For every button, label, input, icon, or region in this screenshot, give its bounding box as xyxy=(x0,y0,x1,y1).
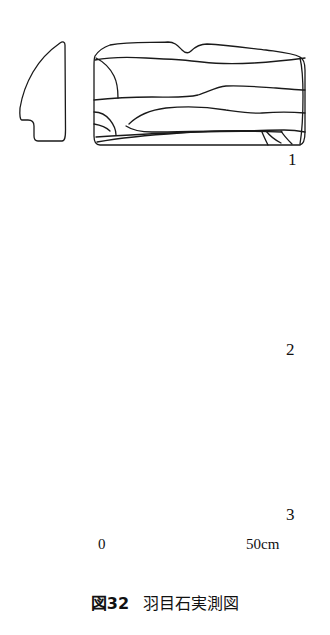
stone-1-group xyxy=(20,42,305,145)
figure-sheet: 1 2 3 0 50cm 図32羽目石実測図 xyxy=(0,0,330,635)
figure-caption-title: 羽目石実測図 xyxy=(143,594,239,613)
stone-number-3: 3 xyxy=(286,505,295,525)
figure-caption: 図32羽目石実測図 xyxy=(0,590,330,614)
stone-number-2: 2 xyxy=(286,340,295,360)
stone-drawings-svg xyxy=(0,0,330,635)
stone-1-profile xyxy=(20,42,66,141)
figure-caption-number: 図32 xyxy=(91,594,129,613)
stone-number-1: 1 xyxy=(288,150,297,170)
scale-bar-start-label: 0 xyxy=(98,536,106,553)
stone-1-elevation xyxy=(94,42,305,145)
scale-bar-end-label: 50cm xyxy=(246,536,279,553)
